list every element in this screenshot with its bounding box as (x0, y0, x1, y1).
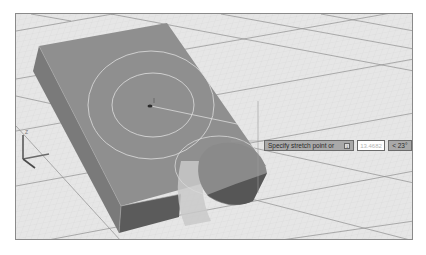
center-grip[interactable] (148, 104, 153, 107)
distance-input[interactable] (357, 140, 385, 151)
ucs-z-label: Z (25, 129, 28, 135)
3d-model-viewport[interactable]: Z Specify stretch point or ↓ < 23° (15, 13, 413, 240)
command-prompt: Specify stretch point or ↓ (264, 140, 354, 151)
prompt-text: Specify stretch point or (268, 142, 334, 149)
scene-canvas[interactable] (16, 14, 413, 240)
angle-field[interactable]: < 23° (388, 140, 411, 151)
dynamic-input-tooltip: Specify stretch point or ↓ < 23° (264, 140, 412, 151)
options-arrow-icon[interactable]: ↓ (344, 143, 350, 149)
